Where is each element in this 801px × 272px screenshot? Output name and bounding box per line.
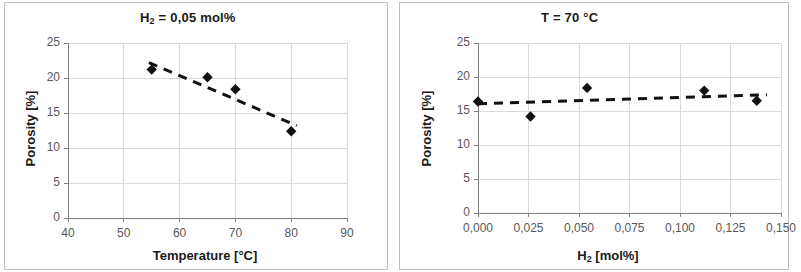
chart-panel-right: T = 70 °C Porosity [%] H2 [mol%] 0510152… bbox=[393, 0, 793, 272]
x-tick-label: 50 bbox=[100, 226, 148, 240]
y-tick-label: 15 bbox=[436, 103, 470, 117]
chart-panel-left: H2 = 0,05 mol% Porosity [%] Temperature … bbox=[0, 0, 392, 272]
y-tick-label: 25 bbox=[436, 35, 470, 49]
x-tick-label: 0,100 bbox=[656, 221, 704, 235]
x-tick-label: 90 bbox=[323, 226, 371, 240]
data-point-marker bbox=[202, 72, 212, 82]
data-point-marker bbox=[752, 96, 762, 106]
y-tick-label: 0 bbox=[26, 210, 60, 224]
y-tick-label: 20 bbox=[436, 69, 470, 83]
y-tick-label: 15 bbox=[26, 105, 60, 119]
y-tick-label: 10 bbox=[436, 137, 470, 151]
data-point-marker bbox=[230, 84, 240, 94]
y-tick-label: 0 bbox=[436, 205, 470, 219]
x-tick-label: 0,050 bbox=[555, 221, 603, 235]
data-point-marker bbox=[525, 111, 535, 121]
data-point-marker bbox=[286, 126, 296, 136]
x-tick-label: 80 bbox=[267, 226, 315, 240]
x-tick-label: 0,075 bbox=[606, 221, 654, 235]
x-tick-label: 0,150 bbox=[757, 221, 801, 235]
x-tick-label: 0,025 bbox=[505, 221, 553, 235]
y-tick-label: 5 bbox=[436, 171, 470, 185]
y-tick-label: 10 bbox=[26, 140, 60, 154]
x-tick-label: 0,125 bbox=[707, 221, 755, 235]
x-tick-label: 70 bbox=[211, 226, 259, 240]
x-tick-label: 40 bbox=[44, 226, 92, 240]
y-tick-label: 5 bbox=[26, 175, 60, 189]
x-tick-label: 0,000 bbox=[454, 221, 502, 235]
data-point-marker bbox=[699, 85, 709, 95]
x-tick-label: 60 bbox=[156, 226, 204, 240]
y-tick-label: 20 bbox=[26, 70, 60, 84]
y-tick-label: 25 bbox=[26, 35, 60, 49]
data-point-marker bbox=[582, 83, 592, 93]
